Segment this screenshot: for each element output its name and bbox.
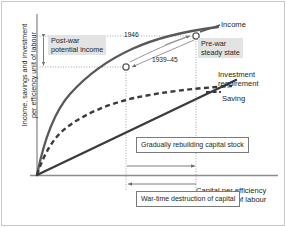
income-curve-label: Income (221, 21, 246, 30)
investment-requirement-label: Investment requirement (218, 70, 259, 88)
year-1946-label: 1946 (124, 31, 139, 38)
post-war-point-marker (123, 64, 129, 70)
wartime-destruction-box: War-time destruction of capital (136, 191, 240, 207)
y-axis-label: Income, savings and investment per effic… (20, 0, 38, 150)
economic-growth-figure: Income, savings and investment per effic… (0, 0, 286, 227)
prewar-steady-state-label: Pre-war steady state (198, 38, 243, 58)
postwar-potential-income-label: Post-war potential income (48, 35, 106, 55)
gradually-rebuilding-box: Gradually rebuilding capital stock (136, 137, 249, 153)
investment-requirement-line (37, 80, 236, 175)
saving-curve-label: Saving (222, 95, 245, 104)
year-1939-45-label: 1939–45 (152, 56, 178, 63)
